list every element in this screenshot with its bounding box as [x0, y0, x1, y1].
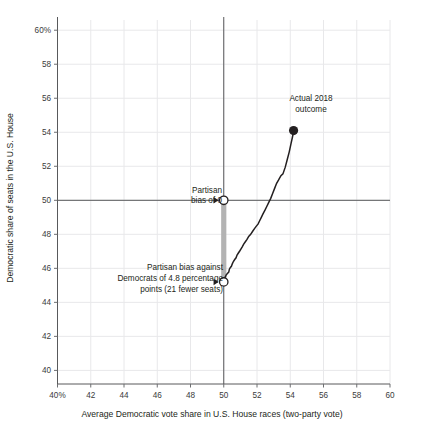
x-tick-label-42: 42	[86, 391, 96, 400]
actual-2018-outcome-line2: outcome	[295, 105, 327, 114]
y-tick-label-48: 48	[42, 230, 52, 239]
x-tick-label-56: 56	[319, 391, 329, 400]
x-tick-label-44: 44	[119, 391, 129, 400]
y-tick-label-40: 40	[42, 366, 52, 375]
x-tick-label-58: 58	[352, 391, 362, 400]
x-tick-label-40: 40%	[49, 391, 65, 400]
x-axis-title: Average Democratic vote share in U.S. Ho…	[81, 409, 342, 419]
partisan-bias-zero-line1: Partisan	[192, 186, 222, 195]
partisan-bias-actual-line3: points (21 fewer seats)	[140, 285, 223, 294]
actual-2018-outcome-marker	[289, 126, 298, 135]
partisan-bias-zero-line2: bias of 0	[191, 196, 222, 205]
y-tick-label-52: 52	[42, 162, 52, 171]
y-tick-label-54: 54	[42, 128, 52, 137]
chart-background	[0, 0, 424, 435]
y-tick-label-58: 58	[42, 60, 52, 69]
partisan-bias-actual-line1: Partisan bias against	[147, 263, 224, 272]
y-axis-title: Democratic share of seats in the U.S. Ho…	[5, 113, 15, 283]
partisan-bias-zero-annotation: Partisan bias of 0	[191, 186, 222, 205]
y-tick-label-60: 60%	[35, 26, 51, 35]
chart-svg: 40 42 44 46 48 50 52 54 56 58 60% 40% 42…	[0, 0, 424, 435]
y-tick-label-46: 46	[42, 264, 52, 273]
x-tick-label-54: 54	[286, 391, 296, 400]
x-tick-label-46: 46	[153, 391, 163, 400]
x-tick-label-52: 52	[252, 391, 262, 400]
x-tick-label-48: 48	[186, 391, 196, 400]
partisan-bias-actual-line2: Democrats of 4.8 percentage	[117, 274, 223, 283]
actual-2018-outcome-line1: Actual 2018	[289, 94, 333, 103]
y-tick-label-42: 42	[42, 332, 52, 341]
y-tick-label-56: 56	[42, 94, 52, 103]
seats-votes-curve-figure: 40 42 44 46 48 50 52 54 56 58 60% 40% 42…	[0, 0, 424, 435]
x-tick-label-50: 50	[219, 391, 229, 400]
x-tick-label-60: 60	[385, 391, 395, 400]
y-tick-label-44: 44	[42, 298, 52, 307]
y-tick-label-50: 50	[42, 196, 52, 205]
